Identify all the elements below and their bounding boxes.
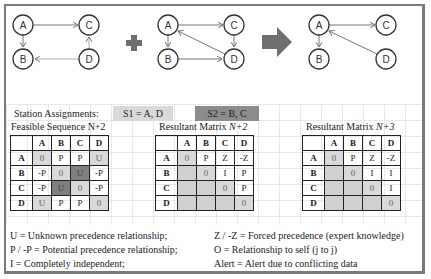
- node-c: C: [79, 15, 99, 35]
- node-d: D: [376, 49, 396, 69]
- node-a: A: [309, 15, 329, 35]
- svg-text:D: D: [230, 54, 237, 65]
- svg-text:B: B: [20, 54, 27, 65]
- matrix-feasible-sequence: ABCD A0PPU B-P0U-P C-PU0-P DUPP0: [10, 135, 109, 211]
- node-d: D: [224, 49, 244, 69]
- station-assignments: Station Assignments: S1 = A, D S2 = B, C: [10, 106, 259, 121]
- legend-o: O = Relationship to self (j to j): [214, 243, 404, 257]
- svg-text:A: A: [20, 20, 27, 31]
- node-b: B: [158, 49, 178, 69]
- legend-i: I = Completely independent;: [10, 257, 178, 271]
- matrix-title-n3: Resultant Matrix N+3: [306, 121, 394, 132]
- station-s1: S1 = A, D: [113, 106, 173, 121]
- node-a: A: [13, 15, 33, 35]
- legend-right: Z / -Z = Forced precedence (expert knowl…: [214, 229, 404, 271]
- graph-3: A B C D: [309, 15, 396, 69]
- matrix-resultant-n3: ABCD A0PZ-Z B0II C0I D0: [302, 135, 401, 211]
- node-c: C: [376, 15, 396, 35]
- svg-text:C: C: [382, 20, 389, 31]
- node-b: B: [13, 49, 33, 69]
- matrix-title-n2: Resultant Matrix N+2: [159, 121, 247, 132]
- matrix-title-feasible: Feasible Sequence N+2: [11, 121, 106, 132]
- plus-icon: [126, 35, 142, 51]
- legend-u: U = Unknown precedence relationship;: [10, 229, 178, 243]
- node-a: A: [158, 15, 178, 35]
- station-s2: S2 = B, C: [195, 106, 259, 121]
- legend-z: Z / -Z = Forced precedence (expert knowl…: [214, 229, 404, 243]
- node-c: C: [224, 15, 244, 35]
- node-b: B: [309, 49, 329, 69]
- legend-alert: Alert = Alert due to conflicting data: [214, 257, 404, 271]
- station-label: Station Assignments:: [10, 108, 113, 119]
- legend-left: U = Unknown precedence relationship; P /…: [10, 229, 178, 271]
- svg-text:A: A: [316, 20, 323, 31]
- result-arrow-icon: [262, 27, 292, 57]
- svg-text:B: B: [316, 54, 323, 65]
- svg-text:C: C: [85, 20, 92, 31]
- legend-p: P / -P = Potential precedence relationsh…: [10, 243, 178, 257]
- svg-text:D: D: [85, 54, 92, 65]
- precedence-diagrams: A B C D A B C D A B C D: [0, 0, 431, 100]
- graph-1: A B C D: [13, 15, 99, 69]
- svg-text:B: B: [165, 54, 172, 65]
- graph-2: A B C D: [158, 15, 244, 69]
- matrix-resultant-n2: ABCD A0PZ-Z B0IP C0P D0: [155, 135, 254, 211]
- svg-text:C: C: [230, 20, 237, 31]
- svg-text:D: D: [382, 54, 389, 65]
- svg-text:A: A: [165, 20, 172, 31]
- node-d: D: [79, 49, 99, 69]
